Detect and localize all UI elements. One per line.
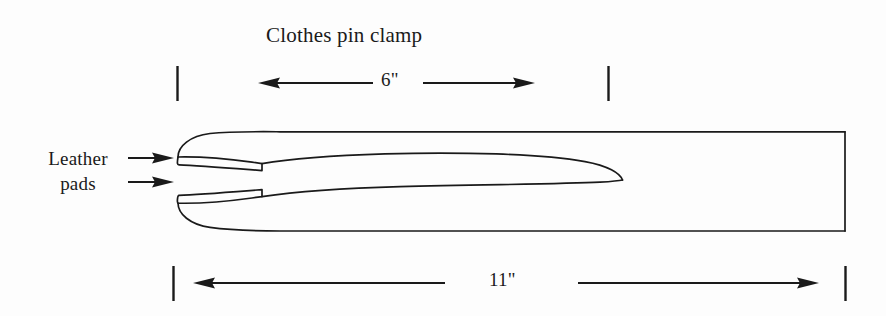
lower-leather-pad-outline (177, 190, 262, 204)
clamp-drawing-canvas (0, 0, 886, 316)
upper-leather-pad (177, 157, 262, 171)
lower-dimension-arrow-left (193, 278, 445, 289)
upper-leather-pad-outline (177, 157, 262, 171)
leather-pads-leader-arrows (128, 153, 174, 188)
clamp-outer-body (178, 132, 845, 231)
diagram-root: Clothes pin clamp 6" 11" Leatherpads (0, 0, 886, 316)
clamp-upper-outer-edge (178, 132, 845, 157)
leather-pads-label: Leatherpads (30, 146, 126, 196)
clamp-lens-upper-edge (262, 153, 623, 180)
leather-pads-label-line2: pads (30, 171, 126, 196)
upper-dimension-arrow-left (258, 78, 373, 89)
lower-dimension-label: 11" (489, 268, 516, 292)
leather-pad-leader-lower (128, 177, 174, 188)
clamp-inner-lens (262, 153, 623, 197)
lower-leather-pad (177, 190, 262, 204)
page-title: Clothes pin clamp (266, 22, 422, 48)
leather-pad-leader-upper (128, 153, 174, 164)
upper-dimension-arrow-right (423, 78, 535, 89)
lower-dimension-arrow-right (578, 278, 819, 289)
leather-pads-label-line1: Leather (48, 148, 107, 169)
clamp-lower-outer-edge (178, 203, 845, 231)
upper-dimension-label: 6" (381, 68, 399, 92)
clamp-lens-lower-edge (262, 180, 623, 197)
